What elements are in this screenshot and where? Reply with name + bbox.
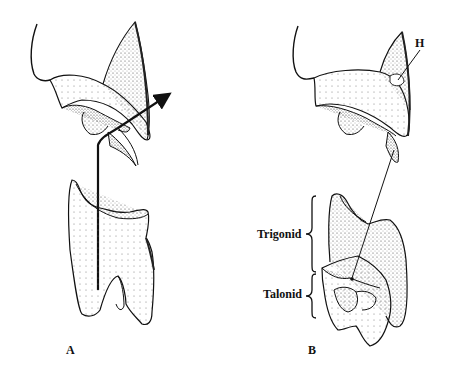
- label-h: H: [415, 36, 424, 51]
- panel-label-b: B: [308, 343, 316, 358]
- talonid-brace: [306, 274, 316, 318]
- label-trigonid: Trigonid: [257, 227, 301, 242]
- panel-label-a: A: [66, 343, 75, 358]
- panel-b-lower-tooth: [322, 194, 407, 346]
- panel-a-upper-tooth: [31, 22, 150, 166]
- tooth-occlusion-figure: H Trigonid Talonid A B: [0, 0, 454, 373]
- panel-a-lower-tooth: [69, 180, 154, 325]
- illustration-canvas: [0, 0, 454, 373]
- panel-b-upper-tooth: [293, 26, 410, 162]
- trigonid-brace: [306, 196, 316, 272]
- label-talonid: Talonid: [263, 287, 302, 302]
